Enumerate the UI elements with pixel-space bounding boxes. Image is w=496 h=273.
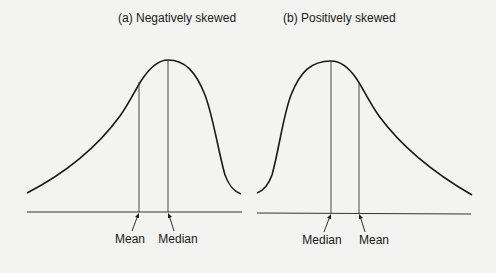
baseline-b <box>257 213 471 214</box>
panel-b-median-label: Median <box>302 233 341 247</box>
negatively-skewed-curve <box>27 60 241 194</box>
panel-a <box>27 60 242 231</box>
skewness-diagram <box>0 0 496 273</box>
mean-arrowhead-b <box>359 214 363 219</box>
panel-a-median-label: Median <box>158 232 197 246</box>
panel-a-mean-label: Mean <box>115 232 145 246</box>
median-arrowhead-b <box>327 214 331 219</box>
panel-b-mean-label: Mean <box>359 233 389 247</box>
median-arrowhead-a <box>168 213 172 218</box>
positively-skewed-curve <box>257 61 472 195</box>
mean-arrowhead-a <box>135 213 139 218</box>
panel-b <box>257 61 472 232</box>
